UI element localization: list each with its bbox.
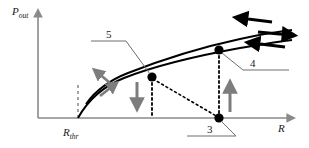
marker-point-3 [214, 113, 223, 122]
figure-canvas: Pout R Rthr 5 4 3 [0, 0, 309, 148]
diagram-svg [0, 0, 309, 148]
callout-5-leader [91, 41, 150, 74]
lower-branch-curve [78, 40, 292, 118]
threshold-label: Rthr [63, 127, 79, 141]
y-axis-label: Pout [12, 6, 28, 20]
arrow-lower-left-bottom-icon [252, 43, 285, 47]
arrow-upper-left-top-icon [240, 18, 272, 22]
x-axis-label: R [278, 123, 285, 134]
marker-point-5 [147, 72, 156, 81]
dotted-diagonal-5-to-3 [153, 79, 218, 117]
callout-4-label: 4 [250, 58, 256, 69]
callout-3-label: 3 [207, 124, 213, 135]
callout-5-label: 5 [106, 29, 112, 40]
arrow-curve-up-left-icon [97, 72, 110, 83]
